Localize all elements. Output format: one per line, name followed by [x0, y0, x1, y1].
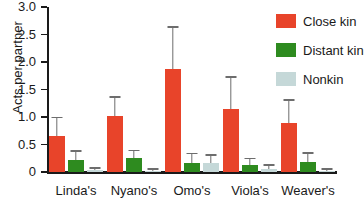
error-bar-cap [206, 154, 217, 156]
error-bar [249, 159, 250, 165]
error-bar-cap [168, 26, 179, 28]
bar [261, 169, 277, 172]
legend-swatch [276, 14, 296, 28]
legend-label: Distant kin [303, 44, 364, 57]
legend-swatch [276, 43, 296, 57]
error-bar-cap [245, 158, 256, 160]
x-axis-group-label: Linda's [47, 183, 105, 198]
y-axis-tick-label: 2.0 [18, 55, 36, 68]
error-bar-cap [52, 117, 63, 119]
bar-group: Viola's [221, 7, 279, 172]
bar [165, 69, 181, 172]
error-bar [172, 28, 173, 69]
x-axis-group-label: Weaver's [279, 183, 337, 198]
bar [203, 163, 219, 172]
error-bar [307, 154, 308, 162]
bar [184, 163, 200, 172]
y-axis-tick-label: 0 [29, 165, 36, 178]
x-axis-group-label: Nyano's [105, 183, 163, 198]
error-bar-cap [322, 168, 333, 170]
y-axis-tick-label: 0.5 [18, 138, 36, 151]
error-bar [191, 154, 192, 162]
error-bar-cap [110, 96, 121, 98]
bar-group: Nyano's [105, 7, 163, 172]
legend-item[interactable]: Nonkin [276, 72, 364, 86]
bar-group: Linda's [47, 7, 105, 172]
x-axis-group-label: Viola's [221, 183, 279, 198]
bar [68, 160, 84, 172]
error-bar [326, 170, 327, 171]
error-bar-cap [264, 164, 275, 166]
bar-slot [242, 7, 258, 172]
chart-legend: Close kinDistant kinNonkin [276, 14, 364, 101]
bar-slot [223, 7, 239, 172]
bar [126, 158, 142, 172]
legend-label: Nonkin [303, 73, 343, 86]
legend-label: Close kin [303, 15, 356, 28]
bar-group: Omo's [163, 7, 221, 172]
error-bar-cap [148, 168, 159, 170]
y-axis-tick-label: 3.0 [18, 0, 36, 13]
bar-slot [49, 7, 65, 172]
error-bar [94, 169, 95, 171]
error-bar-cap [71, 150, 82, 152]
error-bar [268, 166, 269, 169]
error-bar-cap [226, 76, 237, 78]
error-bar-cap [303, 152, 314, 154]
bar-slot [145, 7, 161, 172]
bar-slot [126, 7, 142, 172]
error-bar [210, 156, 211, 163]
legend-item[interactable]: Distant kin [276, 43, 364, 57]
legend-swatch [276, 72, 296, 86]
error-bar [56, 118, 57, 136]
error-bar-cap [129, 150, 140, 152]
legend-item[interactable]: Close kin [276, 14, 364, 28]
error-bar [288, 101, 289, 123]
bar [281, 123, 297, 173]
bar [107, 116, 123, 172]
bar-slot [87, 7, 103, 172]
bar [49, 136, 65, 172]
error-bar [230, 78, 231, 109]
bar [242, 165, 258, 172]
bar-slot [165, 7, 181, 172]
bar-slot [184, 7, 200, 172]
error-bar [133, 151, 134, 158]
bar-slot [68, 7, 84, 172]
y-axis-tick-label: 1.5 [18, 83, 36, 96]
error-bar [114, 98, 115, 116]
y-axis-tick-label: 1.0 [18, 110, 36, 123]
bar-slot [107, 7, 123, 172]
bar [223, 109, 239, 172]
error-bar [152, 170, 153, 171]
bar-slot [203, 7, 219, 172]
bar-slot [261, 7, 277, 172]
x-axis-group-label: Omo's [163, 183, 221, 198]
bar [87, 170, 103, 172]
y-axis-tick-label: 2.5 [18, 28, 36, 41]
error-bar [75, 152, 76, 161]
error-bar-cap [187, 153, 198, 155]
error-bar-cap [90, 167, 101, 169]
bar [300, 162, 316, 172]
